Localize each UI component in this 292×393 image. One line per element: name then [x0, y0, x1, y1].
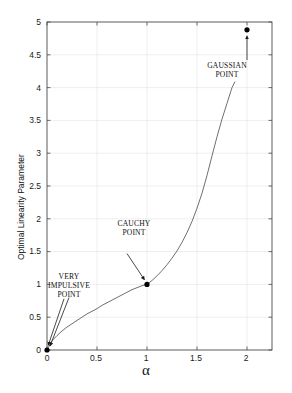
y-tick-label-3.5: 3.5 [21, 116, 41, 125]
cauchy-point-annotation: CAUCHY POINT [105, 219, 163, 237]
y-axis-label: Optimal Linearity Parameter [16, 154, 26, 260]
marker-gaussian-point [244, 27, 249, 32]
y-tick-label-4: 4 [21, 84, 41, 93]
very-impulsive-point-annotation: VERY IMPULSIVE POINT [38, 272, 100, 300]
x-axis-label: α [0, 362, 292, 379]
y-tick-label-0.5: 0.5 [21, 313, 41, 322]
marker-cauchy-point [144, 282, 149, 287]
marker-very-impulsive-point [44, 347, 49, 352]
y-tick-label-5: 5 [21, 18, 41, 27]
chart-figure [0, 0, 292, 393]
y-tick-label-4.5: 4.5 [21, 51, 41, 60]
gaussian-point-annotation: GAUSSIAN POINT [196, 61, 258, 79]
